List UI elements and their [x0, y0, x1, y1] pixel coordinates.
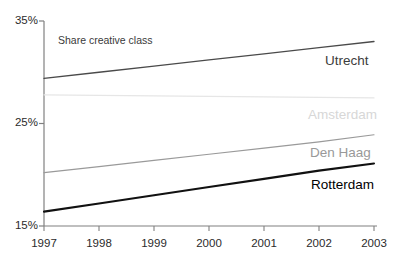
x-tick-label-2002: 2002 [299, 238, 339, 250]
x-tick-label-1997: 1997 [24, 238, 64, 250]
series-label-den-haag: Den Haag [310, 146, 371, 160]
chart-annotation-share-creative-class: Share creative class [58, 35, 153, 46]
series-label-utrecht: Utrecht [325, 54, 369, 68]
y-tick-label-35: 35% [4, 15, 38, 27]
series-label-rotterdam: Rotterdam [311, 178, 374, 192]
x-tick-label-2003: 2003 [354, 238, 394, 250]
y-tick-label-25: 25% [4, 117, 38, 129]
series-label-amsterdam: Amsterdam [308, 108, 377, 122]
chart-container: 35% 25% 15% 1997 1998 1999 2000 2001 200… [0, 0, 411, 265]
y-tick-label-15: 15% [4, 220, 38, 232]
x-tick-label-1998: 1998 [79, 238, 119, 250]
series-line-amsterdam [44, 95, 374, 98]
x-tick-label-2000: 2000 [189, 238, 229, 250]
x-tick-label-2001: 2001 [244, 238, 284, 250]
x-tick-label-1999: 1999 [134, 238, 174, 250]
